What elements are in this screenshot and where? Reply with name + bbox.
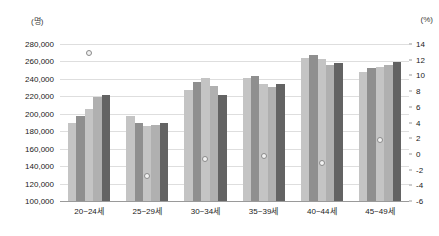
y2-axis-tick-mark xyxy=(409,169,412,170)
bar xyxy=(160,123,168,202)
bar xyxy=(367,68,375,201)
bar xyxy=(201,78,209,201)
bar xyxy=(359,72,367,201)
bar xyxy=(143,126,151,201)
rate-marker xyxy=(86,50,92,56)
bar xyxy=(376,67,384,201)
bar-groups xyxy=(60,44,409,201)
y2-axis-tick-mark xyxy=(409,106,412,107)
bar-group xyxy=(118,44,176,201)
y2-axis-tick-mark xyxy=(409,138,412,139)
rate-marker xyxy=(261,153,267,159)
gridline xyxy=(60,201,409,202)
bar xyxy=(68,123,76,201)
bar-group xyxy=(351,44,409,201)
bar-group xyxy=(293,44,351,201)
bar-group xyxy=(60,44,118,201)
bar xyxy=(301,58,309,201)
chart-container: (명) (%) 100,000120,000140,000160,000180,… xyxy=(0,0,439,236)
y-axis-tick-label: 100,000 xyxy=(25,197,54,206)
y2-axis-tick-mark xyxy=(409,122,412,123)
bar xyxy=(210,86,218,201)
y2-axis-tick-mark xyxy=(409,91,412,92)
bar xyxy=(126,116,134,201)
y-axis-tick-label: 280,000 xyxy=(25,40,54,49)
bar-group xyxy=(176,44,234,201)
y2-axis-tick-mark xyxy=(409,153,412,154)
y2-axis-tick-label: 0 xyxy=(416,149,420,158)
bar-group xyxy=(235,44,293,201)
y2-axis-tick-label: -6 xyxy=(416,197,423,206)
bar xyxy=(76,116,84,201)
bar xyxy=(243,78,251,201)
bar xyxy=(184,90,192,201)
x-axis-tick-label: 25~29세 xyxy=(118,205,176,216)
y2-axis-tick-mark xyxy=(409,201,412,202)
x-axis-tick-label: 35~39세 xyxy=(235,205,293,216)
y2-axis-tick-label: 8 xyxy=(416,87,420,96)
y2-axis-tick-mark xyxy=(409,59,412,60)
y-axis-tick-label: 140,000 xyxy=(25,162,54,171)
bar xyxy=(334,63,342,201)
y-axis-tick-label: 180,000 xyxy=(25,127,54,136)
y-axis-tick-label: 260,000 xyxy=(25,57,54,66)
y2-axis-tick-mark xyxy=(409,185,412,186)
bar xyxy=(218,95,226,201)
bar xyxy=(93,97,101,201)
bar xyxy=(318,59,326,201)
bar xyxy=(276,84,284,201)
x-axis-labels: 20~24세25~29세30~34세35~39세40~44세45~49세 xyxy=(60,205,409,216)
bar xyxy=(393,62,401,201)
bar xyxy=(102,95,110,201)
bar xyxy=(151,125,159,201)
bar xyxy=(384,65,392,201)
y2-axis-tick-label: 6 xyxy=(416,102,420,111)
bar xyxy=(268,87,276,201)
y-axis-tick-label: 220,000 xyxy=(25,92,54,101)
bar xyxy=(85,109,93,201)
bar xyxy=(135,123,143,202)
x-axis-tick-label: 30~34세 xyxy=(176,205,234,216)
y2-axis-tick-label: -4 xyxy=(416,181,423,190)
y-axis-tick-label: 240,000 xyxy=(25,74,54,83)
y2-axis-tick-label: 4 xyxy=(416,118,420,127)
y-axis-tick-label: 200,000 xyxy=(25,109,54,118)
plot-area: 100,000120,000140,000160,000180,000200,0… xyxy=(60,44,409,202)
y2-axis-tick-mark xyxy=(409,44,412,45)
bar xyxy=(251,76,259,201)
x-axis-tick-label: 45~49세 xyxy=(351,205,409,216)
y2-axis-tick-label: 14 xyxy=(416,40,425,49)
x-axis-tick-label: 40~44세 xyxy=(293,205,351,216)
bar xyxy=(309,55,317,201)
left-axis-unit-label: (명) xyxy=(31,15,43,26)
y2-axis-tick-label: 12 xyxy=(416,55,425,64)
y-axis-tick-label: 120,000 xyxy=(25,179,54,188)
y2-axis-tick-mark xyxy=(409,75,412,76)
bar xyxy=(326,65,334,201)
x-axis-tick-label: 20~24세 xyxy=(60,205,118,216)
y2-axis-tick-label: -2 xyxy=(416,165,423,174)
bar xyxy=(259,84,267,201)
y2-axis-tick-label: 10 xyxy=(416,71,425,80)
y2-axis-tick-label: 2 xyxy=(416,134,420,143)
bar xyxy=(193,82,201,201)
y-axis-tick-label: 160,000 xyxy=(25,144,54,153)
right-axis-unit-label: (%) xyxy=(421,15,433,24)
rate-marker xyxy=(377,137,383,143)
